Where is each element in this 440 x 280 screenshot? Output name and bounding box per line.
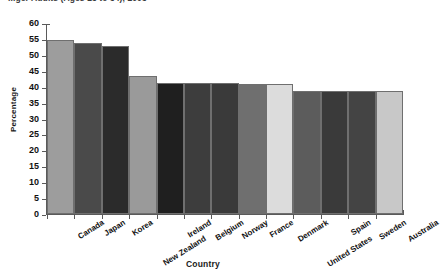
bar[interactable]: [239, 84, 266, 214]
bar[interactable]: [266, 84, 293, 214]
bar[interactable]: [211, 83, 238, 214]
y-axis-tick: 50: [42, 56, 46, 57]
y-axis-tick: 60: [42, 24, 46, 25]
y-axis-tick: 10: [42, 183, 46, 184]
bar[interactable]: [348, 91, 375, 215]
y-axis-tick: 25: [42, 135, 46, 136]
y-axis-tick: 40: [42, 88, 46, 89]
x-axis-tick-label: United States: [326, 234, 374, 269]
x-axis-tick-label: Sweden: [378, 218, 408, 242]
bars-layer: [47, 24, 404, 214]
y-axis-title: Percentage: [9, 80, 18, 140]
y-axis-tick-label: 20: [29, 145, 39, 155]
y-axis-tick-label: 40: [29, 82, 39, 92]
bar[interactable]: [74, 43, 101, 214]
bar[interactable]: [376, 91, 403, 215]
x-axis-tick-label: Korea: [130, 218, 154, 238]
y-axis-tick-label: 35: [29, 98, 39, 108]
y-axis-tick-label: 15: [29, 161, 39, 171]
bar[interactable]: [293, 91, 320, 215]
bar[interactable]: [157, 83, 184, 214]
bar[interactable]: [102, 46, 129, 214]
bar[interactable]: [129, 76, 156, 214]
y-axis-tick: 45: [42, 72, 46, 73]
y-axis-tick: 30: [42, 120, 46, 121]
y-axis-tick-label: 0: [34, 209, 39, 219]
x-axis-tick-labels: CanadaJapanKoreaNew ZealandIrelandBelgiu…: [46, 215, 404, 277]
y-axis-tick-label: 25: [29, 129, 39, 139]
y-axis-tick-label: 30: [29, 114, 39, 124]
x-axis-tick-label: France: [268, 218, 295, 240]
y-axis-tick-label: 50: [29, 50, 39, 60]
bar[interactable]: [184, 83, 211, 214]
x-axis-tick-label: Norway: [241, 218, 270, 241]
chart-title: ...ger Adults (Ages 25 to 34), 2005: [8, 0, 147, 3]
x-axis-tick-label: Belgium: [214, 218, 246, 242]
y-axis-tick: 15: [42, 167, 46, 168]
y-axis-tick: 5: [42, 199, 46, 200]
y-axis-tick-label: 10: [29, 177, 39, 187]
x-axis-tick-label: Denmark: [296, 218, 330, 244]
x-axis-tick-label: Japan: [103, 218, 127, 238]
y-axis-tick-label: 55: [29, 34, 39, 44]
x-axis-title: Country: [186, 259, 220, 269]
y-axis-tick-label: 5: [34, 193, 39, 203]
x-axis-tick-label: Australia: [406, 218, 440, 244]
y-axis-tick-label: 60: [29, 18, 39, 28]
y-axis-tick-label: 45: [29, 66, 39, 76]
y-axis-tick: 55: [42, 40, 46, 41]
bar[interactable]: [321, 91, 348, 215]
y-axis-tick: 20: [42, 151, 46, 152]
plot-area: 605550454035302520151050: [46, 24, 404, 215]
bar[interactable]: [47, 40, 74, 214]
y-axis-tick: 35: [42, 104, 46, 105]
